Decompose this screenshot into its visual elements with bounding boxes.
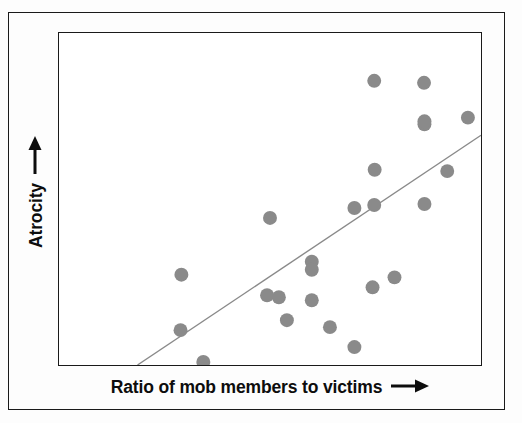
x-axis-label: Ratio of mob members to victims [58, 371, 482, 405]
data-point [367, 198, 381, 212]
data-point [440, 164, 454, 178]
data-point [347, 340, 361, 354]
data-point [347, 201, 361, 215]
y-axis-label: Atrocity [20, 42, 54, 342]
data-point [174, 268, 188, 282]
data-point [388, 270, 402, 284]
data-points-group [174, 74, 475, 365]
data-point [280, 313, 294, 327]
up-arrow-icon [27, 136, 47, 174]
data-point [272, 290, 286, 304]
data-point [260, 288, 274, 302]
data-point [323, 320, 337, 334]
data-point [367, 74, 381, 88]
data-point [263, 211, 277, 225]
data-point [417, 114, 431, 128]
right-arrow-icon [391, 378, 429, 398]
y-axis-label-text: Atrocity [28, 183, 46, 248]
data-point [461, 111, 475, 125]
x-axis-label-text: Ratio of mob members to victims [111, 379, 383, 397]
data-point [366, 280, 380, 294]
plot-canvas [59, 33, 481, 365]
data-point [417, 76, 431, 90]
data-point [196, 355, 210, 365]
data-point [305, 263, 319, 277]
data-point [174, 323, 188, 337]
data-point [417, 197, 431, 211]
data-point [305, 293, 319, 307]
plot-area [58, 32, 482, 366]
trendline [137, 135, 481, 365]
data-point [368, 163, 382, 177]
scatter-plot-figure: Ratio of mob members to victims Atrocity [0, 0, 522, 423]
